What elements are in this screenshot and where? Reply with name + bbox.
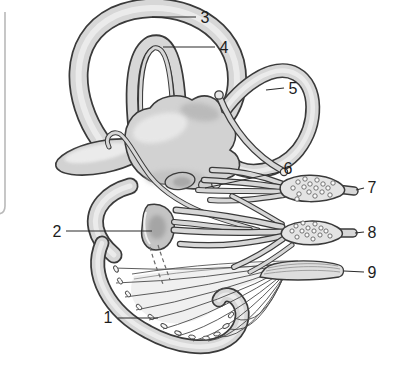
inner-ear-diagram: 1 2 3 4 5 6 7 8 9 [0,0,398,374]
label-7: 7 [368,179,377,196]
cochlear-nerve [260,261,344,280]
label-6: 6 [284,160,293,177]
label-3: 3 [201,9,210,26]
saccule [142,204,175,250]
labyrinth-illustration: 1 2 3 4 5 6 7 8 9 [0,0,398,374]
label-9: 9 [368,264,377,281]
vestibular-ganglion-inferior [281,221,353,245]
label-2: 2 [53,223,62,240]
label-4: 4 [220,39,229,56]
label-8: 8 [368,224,377,241]
figure-border [0,12,5,214]
leader-line-9 [344,271,364,272]
label-5: 5 [289,80,298,97]
vestibular-ganglion-superior [280,175,354,201]
leader-line-5 [266,88,284,90]
label-1: 1 [104,309,113,326]
